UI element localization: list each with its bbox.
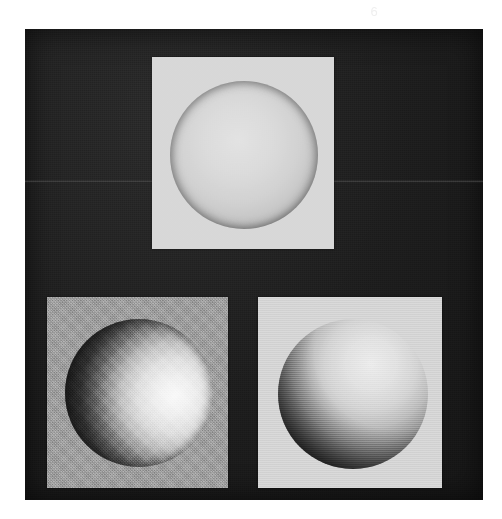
- figure-root: 6: [0, 0, 502, 519]
- image-panel-bottom-right[interactable]: [258, 297, 442, 488]
- scan-artifact-mark: 6: [366, 4, 382, 20]
- figure-dark-plate: [25, 29, 483, 500]
- sphere-side-illumination-right: [65, 319, 213, 467]
- sphere-oblique-illumination-upper-right: [278, 319, 428, 469]
- image-panel-top[interactable]: [152, 57, 334, 249]
- image-panel-bottom-left[interactable]: [47, 297, 228, 488]
- sphere-frontal-illumination: [170, 81, 318, 229]
